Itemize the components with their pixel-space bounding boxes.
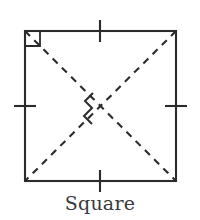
square-figure-container: Square	[0, 0, 200, 220]
square-diagram	[0, 0, 200, 220]
figure-caption: Square	[0, 191, 200, 215]
